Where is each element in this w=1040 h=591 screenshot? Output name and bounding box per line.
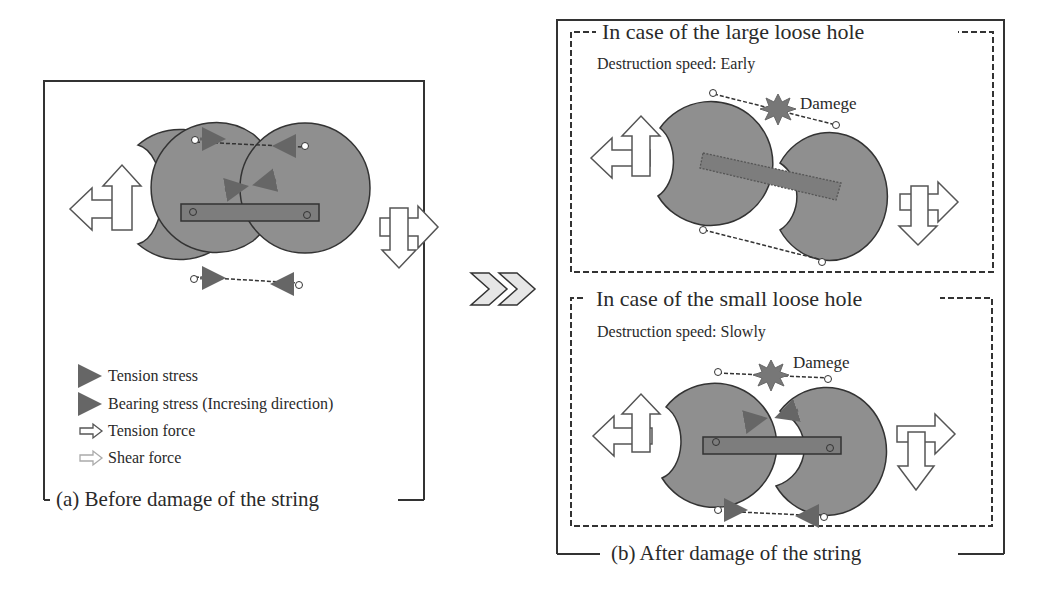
panel-b-caption: (b) After damage of the string (605, 543, 867, 564)
double-chevron-right-icon (471, 273, 535, 305)
small-hole-right-force-arrows (897, 414, 955, 490)
large-hole-damage-label: Damege (800, 95, 857, 112)
large-hole-left-force-arrows (591, 116, 660, 178)
damage-burst-icon (760, 94, 796, 125)
legend-item-tension-force: Tension force (108, 423, 195, 439)
damage-burst-icon (753, 360, 789, 391)
large-hole-joint (658, 90, 887, 266)
small-hole-left-force-arrows (593, 394, 660, 456)
legend-item-shear-force: Shear force (108, 450, 181, 466)
small-hole-joint (662, 360, 887, 521)
panel-a-left-force-arrows (70, 165, 141, 230)
panel-a-right-force-arrows (380, 206, 438, 268)
panel-a-joint (138, 122, 370, 288)
small-hole-title: In case of the small loose hole (590, 288, 868, 310)
small-hole-damage-label: Damege (793, 354, 850, 371)
legend-item-tension-stress: Tension stress (108, 368, 198, 384)
large-hole-right-force-arrows (899, 182, 958, 245)
legend-item-bearing-stress: Bearing stress (Incresing direction) (108, 396, 333, 412)
large-hole-speed: Destruction speed: Early (597, 56, 755, 72)
large-hole-title: In case of the large loose hole (596, 21, 870, 43)
legend-icons (80, 376, 102, 465)
panel-a-caption: (a) Before damage of the string (50, 489, 325, 510)
small-hole-speed: Destruction speed: Slowly (597, 324, 766, 340)
